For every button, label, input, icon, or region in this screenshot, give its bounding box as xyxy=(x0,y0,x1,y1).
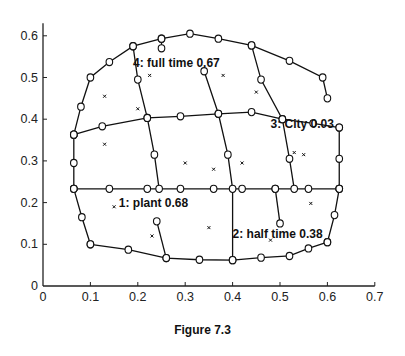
som-node xyxy=(336,155,343,162)
som-node xyxy=(248,109,255,116)
chart: 00.10.20.30.40.50.60.700.10.20.30.40.50.… xyxy=(0,0,405,356)
x-tick-label: 0.2 xyxy=(129,290,146,304)
y-tick-label: 0.6 xyxy=(21,29,38,43)
data-point-marker xyxy=(309,202,312,205)
som-node xyxy=(229,185,236,192)
som-node xyxy=(125,246,132,253)
som-node xyxy=(130,43,137,50)
data-point-marker xyxy=(151,234,154,237)
data-point-marker xyxy=(113,205,116,208)
som-node xyxy=(156,185,163,192)
data-point-marker xyxy=(241,161,244,164)
som-grid-line xyxy=(157,221,166,258)
y-tick-label: 0.2 xyxy=(21,196,38,210)
region-label: 4: full time 0.67 xyxy=(133,56,220,70)
som-grid-line xyxy=(275,189,280,224)
y-tick-label: 0.5 xyxy=(21,71,38,85)
x-tick-label: 0.4 xyxy=(224,290,241,304)
som-node xyxy=(305,185,312,192)
som-node xyxy=(286,57,293,64)
som-node xyxy=(106,185,113,192)
data-point-marker xyxy=(255,91,258,94)
data-point-marker xyxy=(207,226,210,229)
som-node xyxy=(71,185,78,192)
som-node xyxy=(258,76,265,83)
som-node xyxy=(286,252,293,259)
som-node xyxy=(215,35,222,42)
data-point-marker xyxy=(212,168,215,171)
data-point-marker xyxy=(103,95,106,98)
som-node xyxy=(248,42,255,49)
som-node xyxy=(319,74,326,81)
som-node xyxy=(305,245,312,252)
data-point-marker xyxy=(222,74,225,77)
region-label: 3: City 0.03 xyxy=(271,117,335,131)
som-node xyxy=(258,254,265,261)
som-node xyxy=(163,254,170,261)
y-tick-label: 0.3 xyxy=(21,154,38,168)
som-node xyxy=(158,35,165,42)
som-node xyxy=(106,58,113,65)
som-node xyxy=(153,218,160,225)
som-node xyxy=(225,151,232,158)
som-node xyxy=(71,159,78,166)
data-point-marker xyxy=(293,151,296,154)
x-tick-label: 0.3 xyxy=(177,290,194,304)
x-tick-label: 0.6 xyxy=(319,290,336,304)
som-node xyxy=(277,220,284,227)
som-node xyxy=(78,103,85,110)
som-node xyxy=(79,214,86,221)
som-node xyxy=(177,113,184,120)
som-node xyxy=(87,74,94,81)
x-tick-label: 0.1 xyxy=(82,290,99,304)
y-tick-label: 0.1 xyxy=(21,237,38,251)
som-node xyxy=(71,131,78,138)
som-node xyxy=(87,241,94,248)
som-node xyxy=(324,239,331,246)
som-node xyxy=(177,185,184,192)
x-tick-label: 0 xyxy=(40,290,47,304)
som-node xyxy=(291,185,298,192)
som-node xyxy=(151,151,158,158)
som-node xyxy=(158,45,165,52)
som-node xyxy=(144,114,151,121)
som-node xyxy=(336,124,343,131)
som-node xyxy=(331,212,338,219)
som-node xyxy=(239,185,246,192)
som-node xyxy=(324,95,331,102)
som-node xyxy=(135,76,142,83)
x-tick-label: 0.5 xyxy=(271,290,288,304)
som-node xyxy=(229,257,236,264)
som-node xyxy=(272,185,279,192)
data-point-marker xyxy=(136,107,139,110)
som-node xyxy=(99,123,106,130)
som-grid-line xyxy=(204,71,232,260)
data-point-marker xyxy=(302,153,305,156)
som-node xyxy=(196,256,203,263)
y-tick-label: 0.4 xyxy=(21,112,38,126)
y-tick-label: 0 xyxy=(31,279,38,293)
figure-caption: Figure 7.3 xyxy=(0,323,405,337)
data-point-marker xyxy=(184,161,187,164)
region-label: 1: plant 0.68 xyxy=(119,196,189,210)
som-node xyxy=(210,185,217,192)
data-point-marker xyxy=(148,74,151,77)
som-node xyxy=(215,110,222,117)
x-tick-label: 0.7 xyxy=(366,290,383,304)
region-label: 2: half time 0.38 xyxy=(233,227,323,241)
data-point-marker xyxy=(103,143,106,146)
som-node xyxy=(336,185,343,192)
som-node xyxy=(187,30,194,37)
som-node xyxy=(286,155,293,162)
som-node xyxy=(144,185,151,192)
